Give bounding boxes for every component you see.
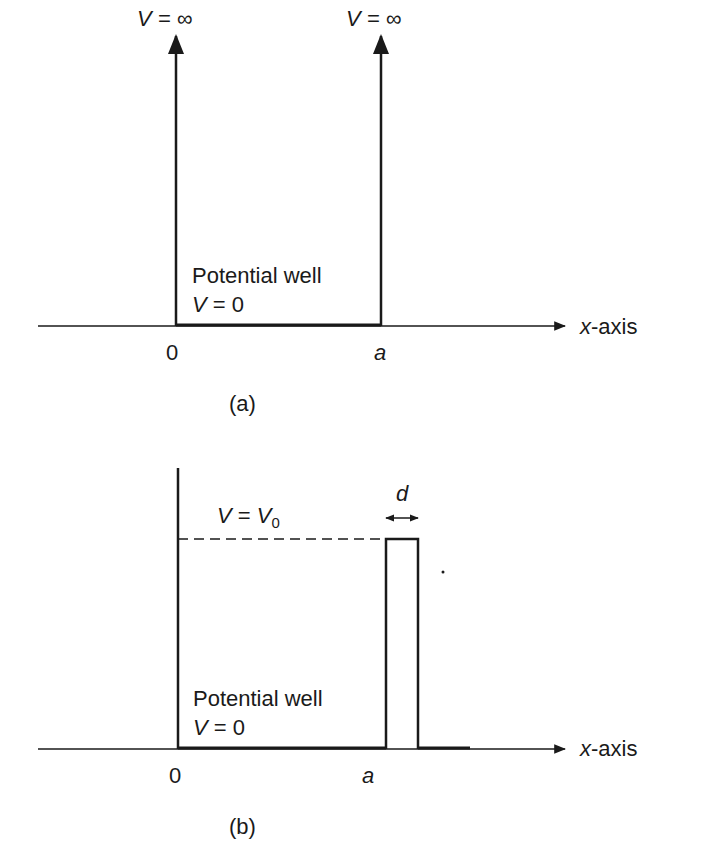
subscript-zero: 0 [271, 514, 279, 531]
right-wall-label-text: V = ∞ [346, 6, 401, 31]
well-label-a-line1: Potential well [192, 265, 322, 287]
eq-zero: = 0 [207, 292, 244, 317]
caption-b: (b) [229, 816, 256, 838]
barrier-width-label: d [396, 483, 408, 505]
var-v: V [217, 503, 232, 528]
diagram-canvas [0, 0, 715, 844]
var-v0: V [257, 503, 272, 528]
axis-text: -axis [591, 736, 637, 761]
x-axis-label-b: x-axis [580, 738, 637, 760]
origin-label-b: 0 [169, 765, 181, 787]
right-wall-label: V = ∞ [346, 8, 401, 30]
well-label-b-line2: V = 0 [193, 717, 245, 739]
var-v: V [193, 715, 208, 740]
barrier-height-label: V = V0 [217, 505, 280, 530]
origin-label-a: 0 [166, 342, 178, 364]
left-wall-label: V = ∞ [137, 8, 192, 30]
equals: = [232, 503, 257, 528]
well-label-b-line1: Potential well [193, 688, 323, 710]
x-var: x [580, 314, 591, 339]
axis-text: -axis [591, 314, 637, 339]
left-wall-label-text: V = ∞ [137, 6, 192, 31]
caption-a: (a) [229, 393, 256, 415]
a-label-b: a [362, 765, 374, 787]
x-var: x [580, 736, 591, 761]
eq-zero: = 0 [208, 715, 245, 740]
x-axis-label-a: x-axis [580, 316, 637, 338]
well-label-a-line2: V = 0 [192, 294, 244, 316]
var-v: V [192, 292, 207, 317]
speck [442, 571, 445, 574]
a-label-a: a [374, 342, 386, 364]
barrier [386, 539, 418, 749]
